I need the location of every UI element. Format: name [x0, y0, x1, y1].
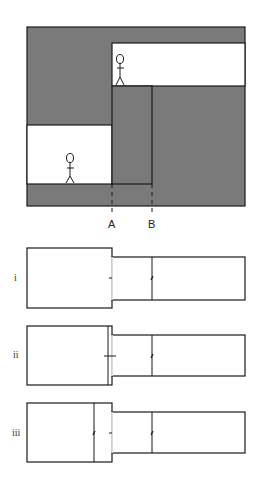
option-ii-label: ii — [13, 349, 19, 360]
marker-a-label: A — [108, 218, 115, 230]
top-diagram — [27, 27, 245, 216]
option-ii-diagram — [27, 326, 245, 385]
option-i-diagram — [27, 248, 245, 308]
option-iii-diagram — [27, 403, 245, 462]
diagram-canvas — [0, 0, 258, 483]
middle-block — [112, 86, 152, 184]
upper-corridor — [112, 43, 245, 86]
option-iii-label: iii — [12, 427, 20, 438]
marker-b-label: B — [148, 218, 155, 230]
option-i-label: i — [14, 272, 17, 283]
